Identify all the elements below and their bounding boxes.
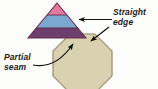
straight-edge-label: Straight edge [113, 8, 146, 27]
partial-seam-label: Partial seam [4, 53, 31, 72]
triangle-top-band [20, 0, 100, 15]
tan-octagon [53, 34, 112, 89]
triangle-middle-band [20, 15, 100, 28]
diagram-canvas: Straight edge Partial seam [0, 0, 158, 89]
